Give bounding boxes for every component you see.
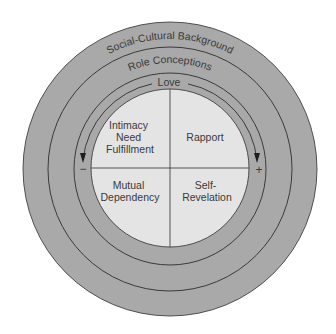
minus-sign: − [79,162,86,176]
wheel-theory-diagram: Social-Cultural Background Role Concepti… [0,0,336,334]
love-label: Love [158,76,181,88]
plus-sign: + [255,163,262,177]
quadrant-rapport-label: Rapport [186,131,223,143]
